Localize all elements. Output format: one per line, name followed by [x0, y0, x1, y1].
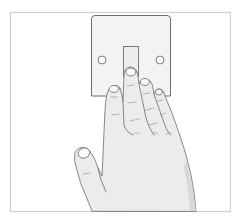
illustration-canvas — [0, 0, 241, 221]
nail-pinky — [156, 89, 163, 95]
nail-middle — [126, 68, 136, 76]
screw-right-icon — [156, 56, 164, 64]
nail-index — [109, 86, 119, 93]
nail-ring — [141, 79, 150, 86]
illustration: Illustration of a hand pressing a wall l… — [0, 0, 241, 221]
screw-left-icon — [98, 56, 106, 64]
